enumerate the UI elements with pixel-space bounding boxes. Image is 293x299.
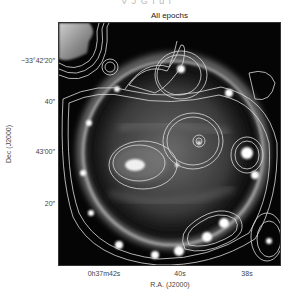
galaxy-image-plot [58,22,281,266]
cropped-caption: V J G I d i [0,0,293,6]
y-tick-label: 20″ [45,200,55,207]
x-tick-label: 0h37m42s [88,270,121,277]
x-tick-label: 38s [241,270,252,277]
galaxy-image-with-contours [59,23,281,266]
x-axis-label: R.A. (J2000) [150,281,189,288]
panel-title: All epochs [58,11,281,20]
y-tick-label: 43′00″ [36,148,55,155]
y-tick-label: 40″ [45,98,55,105]
y-axis-label: Dec (J2000) [5,125,12,163]
y-tick-label: −33°42′20″ [21,57,55,64]
x-tick-label: 40s [174,270,185,277]
